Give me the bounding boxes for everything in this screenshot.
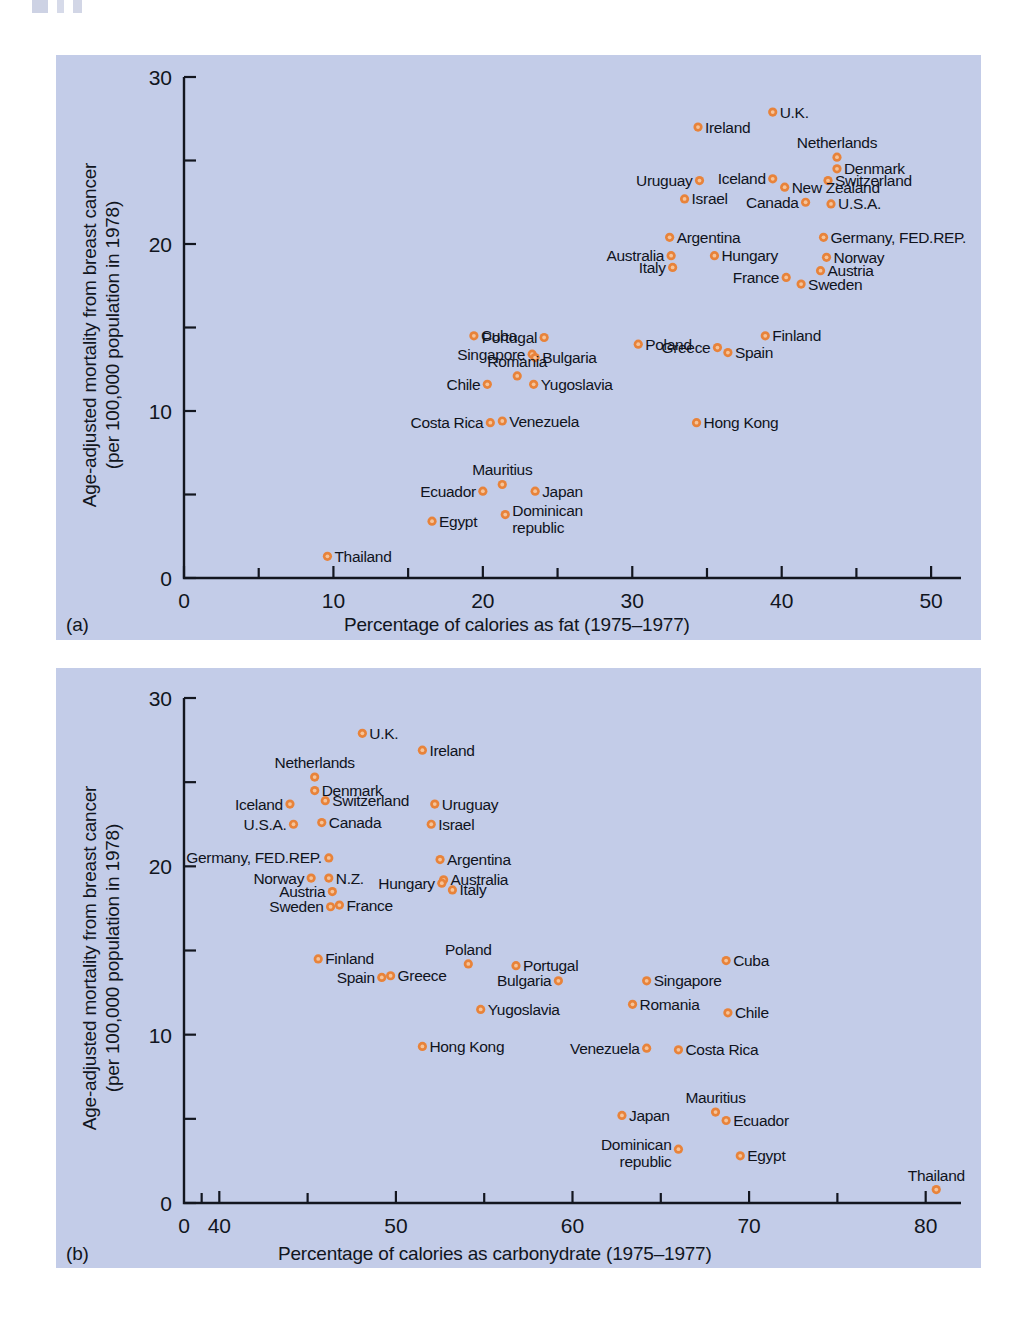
svg-text:Ireland: Ireland [705, 119, 750, 136]
svg-text:50: 50 [384, 1214, 407, 1237]
svg-text:France: France [733, 269, 779, 286]
data-point: France [733, 269, 791, 286]
svg-text:80: 80 [914, 1214, 937, 1237]
svg-text:Italy: Italy [459, 881, 486, 898]
svg-text:Portugal: Portugal [482, 329, 537, 346]
svg-text:Israel: Israel [438, 816, 474, 833]
svg-text:Yugoslavia: Yugoslavia [541, 376, 614, 393]
svg-text:0: 0 [178, 1214, 190, 1237]
svg-text:20: 20 [149, 233, 172, 256]
chart-panel-b: 010203004050607080U.K.IrelandNetherlands… [56, 668, 981, 1268]
svg-text:40: 40 [770, 589, 793, 612]
data-point: Dominicanrepublic [601, 1136, 683, 1170]
data-point: Hong Kong [692, 414, 778, 431]
svg-text:Sweden: Sweden [808, 276, 862, 293]
data-point: Singapore [642, 972, 722, 989]
data-point: Egypt [736, 1147, 787, 1164]
svg-text:Venezuela: Venezuela [570, 1040, 640, 1057]
svg-text:Hong Kong: Hong Kong [429, 1038, 504, 1055]
svg-text:Finland: Finland [325, 950, 374, 967]
data-point: N.Z. [324, 870, 364, 887]
data-point: Chile [723, 1004, 768, 1021]
svg-text:60: 60 [561, 1214, 584, 1237]
data-point: Yugoslavia [476, 1001, 560, 1018]
svg-text:Netherlands: Netherlands [797, 134, 878, 151]
svg-text:0: 0 [160, 1192, 172, 1215]
data-point: Greece [661, 339, 722, 356]
svg-text:Germany, FED.REP.: Germany, FED.REP. [831, 229, 967, 246]
svg-text:Uruguay: Uruguay [442, 796, 499, 813]
svg-text:Bulgaria: Bulgaria [497, 972, 552, 989]
svg-text:Argentina: Argentina [447, 851, 511, 868]
figure-sheet: 010203001020304050U.K.IrelandNetherlands… [0, 0, 1034, 1323]
svg-text:Uruguay: Uruguay [636, 172, 693, 189]
data-point: Sweden [269, 898, 335, 915]
data-point: Finland [761, 327, 821, 344]
svg-text:10: 10 [149, 400, 172, 423]
svg-text:U.S.A.: U.S.A. [838, 195, 881, 212]
svg-text:Egypt: Egypt [747, 1147, 786, 1164]
data-point: Argentina [435, 851, 511, 868]
svg-text:Poland: Poland [445, 941, 491, 958]
y-axis-label-a-line1: Age-adjusted mortality from breast cance… [78, 85, 101, 585]
svg-text:Germany, FED.REP.: Germany, FED.REP. [186, 849, 322, 866]
svg-text:30: 30 [621, 589, 644, 612]
svg-text:Mauritius: Mauritius [472, 461, 533, 478]
svg-text:Costa Rica: Costa Rica [411, 414, 484, 431]
svg-text:10: 10 [322, 589, 345, 612]
data-point: Israel [427, 816, 475, 833]
svg-text:Chile: Chile [735, 1004, 769, 1021]
data-point: Spain [723, 344, 773, 361]
svg-text:Japan: Japan [629, 1107, 670, 1124]
data-point: Bulgaria [497, 972, 563, 989]
y-axis-label-a: Age-adjusted mortality from breast cance… [78, 85, 124, 585]
data-point: Thailand [908, 1167, 965, 1195]
svg-text:New Zealand: New Zealand [792, 179, 880, 196]
svg-text:Cuba: Cuba [733, 952, 770, 969]
svg-text:Dominicanrepublic: Dominicanrepublic [512, 502, 583, 536]
svg-text:Finland: Finland [772, 327, 821, 344]
data-point: Romania [628, 996, 700, 1013]
data-point: Greece [386, 967, 447, 984]
svg-text:Netherlands: Netherlands [275, 754, 356, 771]
svg-text:U.K.: U.K. [369, 725, 398, 742]
svg-text:10: 10 [149, 1024, 172, 1047]
panel-tag-a: (a) [66, 614, 89, 636]
svg-text:70: 70 [737, 1214, 760, 1237]
data-point: Iceland [235, 796, 294, 813]
svg-text:20: 20 [471, 589, 494, 612]
svg-text:Thailand: Thailand [908, 1167, 965, 1184]
svg-text:Ecuador: Ecuador [420, 483, 476, 500]
svg-text:Hungary: Hungary [378, 875, 435, 892]
svg-text:Switzerland: Switzerland [332, 792, 409, 809]
data-point: France [335, 897, 393, 914]
data-point: U.S.A. [826, 195, 881, 212]
svg-text:Dominicanrepublic: Dominicanrepublic [601, 1136, 672, 1170]
svg-text:U.K.: U.K. [780, 104, 809, 121]
chart-panel-a: 010203001020304050U.K.IrelandNetherlands… [56, 55, 981, 640]
svg-text:0: 0 [160, 567, 172, 590]
data-point: Canada [317, 814, 382, 831]
svg-text:Thailand: Thailand [334, 548, 391, 565]
data-point: Uruguay [636, 172, 704, 189]
svg-text:Argentina: Argentina [677, 229, 741, 246]
data-point: Dominicanrepublic [501, 502, 583, 536]
data-point: Venezuela [570, 1040, 651, 1057]
y-axis-label-b: Age-adjusted mortality from breast cance… [78, 708, 124, 1208]
data-point: Romania [487, 353, 548, 381]
svg-text:20: 20 [149, 855, 172, 878]
svg-text:Hungary: Hungary [721, 247, 778, 264]
svg-text:Ecuador: Ecuador [733, 1112, 789, 1129]
svg-text:Costa Rica: Costa Rica [685, 1041, 758, 1058]
data-point: U.K. [768, 104, 809, 121]
svg-text:Egypt: Egypt [439, 513, 478, 530]
svg-text:30: 30 [149, 66, 172, 89]
svg-text:Israel: Israel [692, 190, 728, 207]
data-point: Ecuador [420, 483, 487, 500]
svg-text:Canada: Canada [746, 194, 799, 211]
svg-text:Greece: Greece [661, 339, 710, 356]
data-point: Germany, FED.REP. [186, 849, 333, 866]
svg-text:30: 30 [149, 687, 172, 710]
svg-text:Greece: Greece [398, 967, 447, 984]
data-point: Costa Rica [411, 414, 495, 431]
